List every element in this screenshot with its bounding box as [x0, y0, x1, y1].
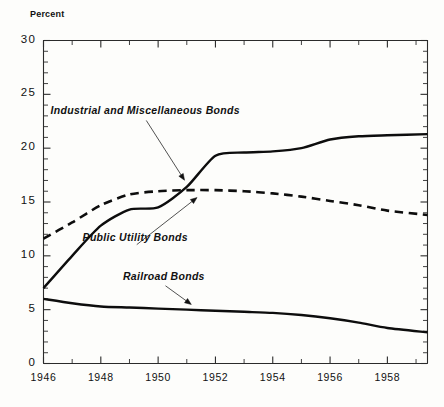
y-tick-label-2: 10	[6, 248, 36, 260]
series-label-0: Industrial and Miscellaneous Bonds	[51, 104, 240, 116]
x-tick-label-1: 1948	[88, 371, 114, 383]
x-tick-label-4: 1954	[260, 371, 286, 383]
series-label-2: Railroad Bonds	[123, 270, 205, 282]
y-tick-label-6: 30	[6, 33, 36, 45]
y-tick-label-1: 5	[6, 302, 36, 314]
axes	[44, 41, 428, 364]
annotation-leader-2	[165, 286, 187, 302]
series-line-0	[44, 134, 428, 288]
line-chart-canvas	[0, 0, 444, 407]
annotation-leader-0	[146, 120, 182, 176]
y-tick-label-0: 0	[6, 356, 36, 368]
annotation-arrowhead-2	[185, 299, 192, 305]
x-tick-label-0: 1946	[31, 371, 57, 383]
x-tick-label-6: 1958	[374, 371, 400, 383]
annotation-arrowhead-1	[190, 198, 197, 204]
y-tick-label-5: 25	[6, 86, 36, 98]
major-ticks	[44, 41, 417, 364]
x-tick-label-2: 1950	[145, 371, 171, 383]
series-line-2	[44, 299, 428, 332]
x-tick-label-3: 1952	[203, 371, 229, 383]
minor-ticks	[44, 41, 428, 364]
x-tick-label-5: 1956	[317, 371, 343, 383]
y-tick-label-4: 20	[6, 140, 36, 152]
y-tick-label-3: 15	[6, 194, 36, 206]
series-label-1: Public Utility Bonds	[83, 231, 188, 243]
chart-figure: Percent 051015202530 1946194819501952195…	[0, 0, 444, 407]
annotation-arrowhead-0	[179, 173, 185, 180]
